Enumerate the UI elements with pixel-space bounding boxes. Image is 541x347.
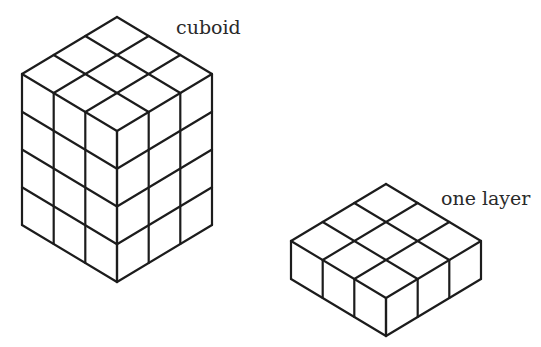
right-face-horizontal-edge: [117, 112, 212, 169]
diagram-canvas: [0, 0, 541, 347]
left-face-horizontal-edge: [22, 225, 117, 282]
right-face-horizontal-edge: [117, 187, 212, 244]
cuboid-drawing: [22, 17, 212, 282]
left-face-horizontal-edge: [22, 112, 117, 169]
right-face-horizontal-edge: [117, 225, 212, 282]
one-layer-label: one layer: [441, 189, 530, 208]
right-face-horizontal-edge: [117, 150, 212, 207]
left-face-horizontal-edge: [291, 279, 386, 336]
right-face-horizontal-edge: [386, 279, 481, 336]
left-face-horizontal-edge: [22, 187, 117, 244]
cuboid-label: cuboid: [176, 18, 241, 37]
left-face-horizontal-edge: [22, 150, 117, 207]
